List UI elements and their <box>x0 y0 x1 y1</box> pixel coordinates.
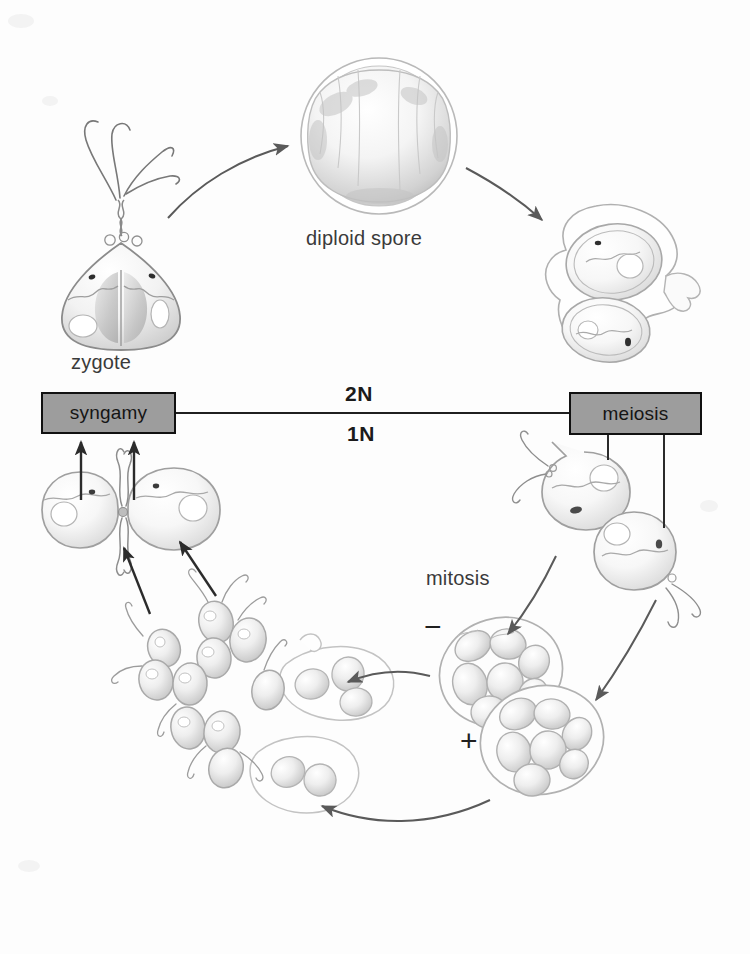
label-diploid-spore: diploid spore <box>306 228 422 248</box>
life-cycle-illustration <box>0 0 750 954</box>
label-zygote: zygote <box>71 352 131 372</box>
node-syngamy-label: syngamy <box>70 402 147 424</box>
node-syngamy: syngamy <box>41 392 176 434</box>
stage-meiotic-division <box>546 205 700 367</box>
stage-diploid-spore <box>301 58 457 214</box>
label-ploidy-haploid: 1N <box>347 423 375 444</box>
label-mitosis: mitosis <box>426 568 490 588</box>
label-ploidy-diploid: 2N <box>345 383 373 404</box>
figure-canvas: zygote diploid spore mitosis 2N 1N − + s… <box>0 0 750 954</box>
label-mating-type-plus: + <box>460 726 478 756</box>
stage-released-gametes <box>112 569 394 813</box>
node-meiosis-label: meiosis <box>603 403 669 425</box>
stage-zygote <box>62 121 180 350</box>
stage-haploid-cells <box>513 431 701 627</box>
label-mating-type-minus: − <box>424 612 442 642</box>
node-meiosis: meiosis <box>569 392 702 435</box>
stage-gamete-fusion <box>42 449 220 576</box>
